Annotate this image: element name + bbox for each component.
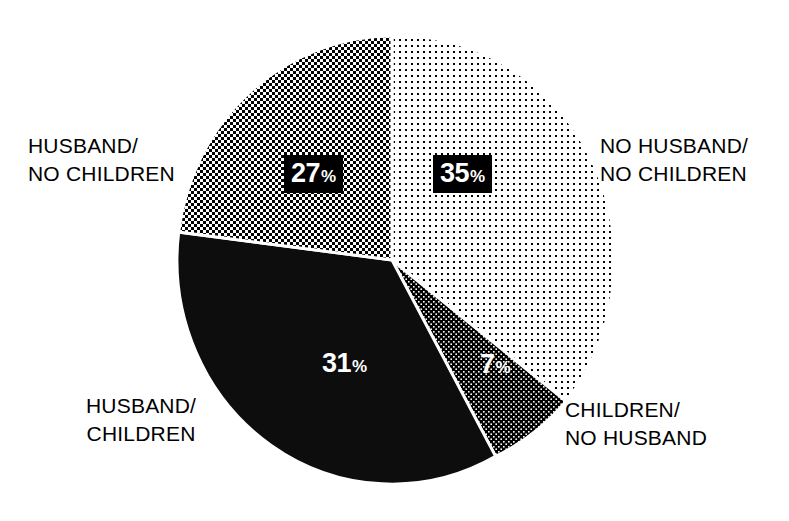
- slice-label-line2: NO CHILDREN: [600, 160, 748, 188]
- slice-value-no-husband-no-children: 35 %: [433, 155, 492, 193]
- slice-value-number: 7: [480, 351, 495, 378]
- pie-slice-husband-no-children: [179, 36, 392, 260]
- pie-chart: HUSBAND/ NO CHILDREN NO HUSBAND/ NO CHIL…: [0, 0, 789, 521]
- slice-label-husband-children: HUSBAND/ CHILDREN: [86, 392, 196, 447]
- slice-value-children-no-husband: 7 %: [480, 351, 511, 378]
- slice-value-husband-children: 31 %: [322, 350, 367, 377]
- slice-value-husband-no-children: 27 %: [284, 155, 343, 193]
- slice-label-line1: HUSBAND/: [28, 132, 175, 160]
- percent-symbol: %: [470, 168, 485, 185]
- slice-label-line1: CHILDREN/: [565, 396, 707, 424]
- slice-label-line1: HUSBAND/: [86, 392, 196, 420]
- slice-label-line1: NO HUSBAND/: [600, 132, 748, 160]
- percent-symbol: %: [352, 358, 367, 375]
- slice-label-line2: NO HUSBAND: [565, 424, 707, 452]
- slice-label-husband-no-children: HUSBAND/ NO CHILDREN: [28, 132, 175, 187]
- slice-value-number: 35: [440, 160, 469, 187]
- slice-label-no-husband-no-children: NO HUSBAND/ NO CHILDREN: [600, 132, 748, 187]
- slice-value-number: 31: [322, 350, 351, 377]
- slice-label-line2: NO CHILDREN: [28, 160, 175, 188]
- percent-symbol: %: [321, 168, 336, 185]
- percent-symbol: %: [496, 359, 511, 376]
- slice-label-children-no-husband: CHILDREN/ NO HUSBAND: [565, 396, 707, 451]
- slice-value-number: 27: [291, 160, 320, 187]
- slice-label-line2: CHILDREN: [86, 420, 196, 448]
